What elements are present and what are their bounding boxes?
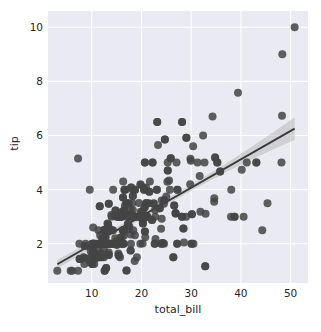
x-tick-label: 20	[121, 288, 161, 299]
x-tick-label: 50	[271, 288, 311, 299]
scatter-plot-figure: 246810 1020304050 total_bill tip	[0, 0, 321, 332]
x-tick-label: 40	[221, 288, 261, 299]
x-tick-label: 10	[72, 288, 112, 299]
x-tick-label: 30	[171, 288, 211, 299]
y-axis-label: tip	[8, 114, 21, 174]
x-axis-label: total_bill	[48, 303, 308, 316]
x-axis-tick-labels: 1020304050	[0, 0, 321, 332]
